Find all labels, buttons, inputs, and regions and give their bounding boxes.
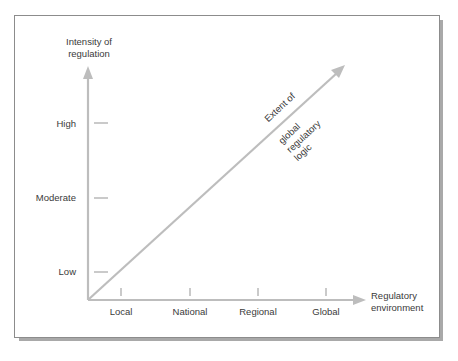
y-axis-title: Intensity of regulation (51, 36, 127, 59)
x-tick-label-regional: Regional (228, 306, 288, 318)
x-tick-label-local: Local (91, 306, 151, 318)
x-axis-title: Regulatory environment (371, 290, 455, 313)
x-axis-title-line-1: Regulatory (371, 290, 455, 302)
x-tick-label-national: National (160, 306, 220, 318)
y-tick-label-moderate: Moderate (6, 192, 76, 204)
y-axis-title-line-1: Intensity of (51, 36, 127, 48)
x-tick-label-global: Global (296, 306, 356, 318)
y-axis-title-line-2: regulation (51, 48, 127, 60)
x-axis-arrowhead (353, 295, 366, 305)
y-axis-arrowhead (83, 66, 93, 79)
x-axis-title-line-2: environment (371, 302, 455, 314)
y-tick-label-high: High (6, 118, 76, 130)
diagonal-trend-line (89, 73, 337, 299)
figure-root: Intensity of regulation Regulatory envir… (0, 0, 458, 361)
y-tick-label-low: Low (6, 266, 76, 278)
